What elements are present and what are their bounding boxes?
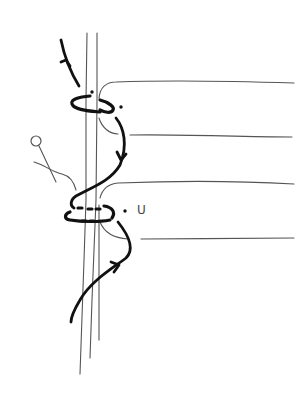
knot-diagram: U [0,0,307,402]
vertical-core-cords [80,33,99,374]
marker-dot-2 [119,105,122,108]
lower-loop-front [66,212,111,222]
marker-dot-3 [123,209,126,212]
cord-top-segment [61,40,79,86]
arrow-icon-top [61,60,70,66]
upper-loop-back [100,100,113,112]
strand-2 [99,118,292,137]
strand-1 [99,81,294,98]
cord-middle-segment [71,118,124,208]
strand-3 [100,182,294,198]
marker-dot-1 [90,90,93,93]
pin-icon [31,136,76,190]
horizontal-strands [99,81,294,239]
cord-bottom-segment [71,222,130,322]
core-cord-middle [90,33,97,358]
strand-4 [100,222,294,239]
lower-loop-dashes-top [78,208,100,209]
label-u: U [137,203,146,217]
core-cord-left [80,33,87,374]
lower-loop-back [104,206,114,218]
diagram-svg [0,0,307,402]
